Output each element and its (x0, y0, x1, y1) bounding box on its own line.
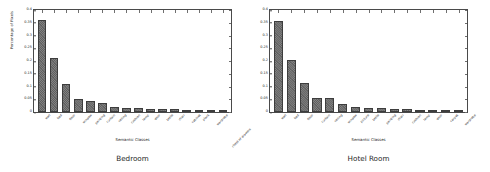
bar (38, 20, 47, 112)
y-axis-tick-label: 0.05 (24, 98, 34, 101)
y-axis-tick-label: 0.15 (24, 72, 34, 75)
x-axis-tick-label: door (154, 114, 161, 121)
y-axis-tick-label: 0.3 (26, 34, 34, 37)
bar (62, 84, 71, 112)
bar-slot (217, 10, 229, 112)
bar (338, 104, 347, 112)
bar (325, 98, 334, 112)
x-axis-title-right: Semantic Classes (269, 137, 468, 142)
x-axis-tick-label: window (83, 114, 93, 124)
right-axis-tick (229, 112, 232, 113)
x-axis-tick-label: lamp (423, 114, 431, 122)
bar-slot (48, 10, 60, 112)
x-axis-tick-label: floor (69, 114, 76, 121)
x-axis-tick-label: ceiling (118, 114, 127, 123)
bar (287, 60, 296, 112)
bar-slot (205, 10, 217, 112)
bar-slot (452, 10, 465, 112)
x-axis-tick-label: window (347, 114, 357, 124)
bar (300, 83, 309, 112)
x-axis-tick-label: painting (95, 114, 106, 125)
bar-slot (108, 10, 120, 112)
bar (454, 110, 463, 112)
x-axis-tick-label: painting (386, 114, 397, 125)
x-axis-tick-label: table (372, 114, 380, 122)
bar-slot (298, 10, 311, 112)
bar (50, 58, 59, 112)
bar-slot (157, 10, 169, 112)
bar (170, 109, 179, 112)
y-axis-tick-label: 0.3 (262, 34, 270, 37)
panel-bedroom: Percentage of Pixels 00.050.10.150.20.25… (0, 0, 245, 172)
bar-slot (413, 10, 426, 112)
bar (402, 109, 411, 112)
figure-two-panel-bar-charts: Percentage of Pixels 00.050.10.150.20.25… (0, 0, 490, 172)
bar-slot (96, 10, 108, 112)
x-axis-tick-label: table (166, 114, 174, 122)
bar (364, 108, 373, 112)
bar-slot (84, 10, 96, 112)
y-axis-tick-label: 0.4 (26, 8, 34, 11)
bar-slot (120, 10, 132, 112)
bar (74, 99, 83, 112)
bar-slot (323, 10, 336, 112)
x-axis-tick-label: floor (307, 114, 314, 121)
y-axis-tick-label: 0.15 (260, 72, 270, 75)
x-axis-tick-label: bed (294, 114, 300, 120)
y-axis-tick-label: 0.05 (260, 98, 270, 101)
x-axis-tick-label: wardrobe (464, 114, 476, 126)
y-axis-tick-label: 0.1 (262, 85, 270, 88)
bar (415, 110, 424, 112)
y-axis-tick-label: 0.25 (260, 47, 270, 50)
bar (274, 21, 283, 112)
bar (312, 98, 321, 112)
bar (122, 108, 131, 112)
x-axis-tick-label: bed (57, 114, 63, 120)
x-axis-tick-label: wall (45, 114, 52, 121)
bar-slot (439, 10, 452, 112)
y-axis-title-left: Percentage of Pixels (10, 0, 14, 68)
bar-slot (388, 10, 401, 112)
y-axis-tick-label: 0.4 (262, 8, 270, 11)
x-axis-title-left: Semantic Classes (33, 137, 232, 142)
bar-slot (401, 10, 414, 112)
bar-slot (426, 10, 439, 112)
bar (146, 109, 155, 112)
bar-series-bedroom (34, 10, 231, 112)
bar-slot (193, 10, 205, 112)
panel-caption-hotel-room: Hotel Room (269, 154, 468, 163)
bar (377, 108, 386, 112)
bar (428, 110, 437, 112)
bar (351, 107, 360, 112)
bar-series-hotel-room (270, 10, 467, 112)
bar-slot (60, 10, 72, 112)
x-axis-tick-label: chair (178, 114, 186, 122)
y-axis-tick-label: 0.2 (26, 59, 34, 62)
x-axis-tick-label: ceiling (334, 114, 343, 123)
x-axis-tick-label: picture (360, 114, 370, 124)
bar-slot (336, 10, 349, 112)
bar-slot (72, 10, 84, 112)
x-axis-tick-label: cushion (131, 114, 142, 125)
bar (110, 107, 119, 112)
x-axis-tick-label: door (436, 114, 443, 121)
bar (98, 103, 107, 112)
bar-slot (133, 10, 145, 112)
y-axis-tick-label: 0.25 (24, 47, 34, 50)
bar-slot (311, 10, 324, 112)
bar-slot (362, 10, 375, 112)
x-axis-tick-label: lamp (142, 114, 150, 122)
x-axis-tick-label: curtain (107, 114, 117, 124)
bar (158, 109, 167, 112)
bar (207, 110, 216, 112)
bar-slot (285, 10, 298, 112)
y-axis-tick-label: 0.35 (260, 21, 270, 24)
bar (86, 101, 95, 112)
x-axis-tick-label: cushion (412, 114, 423, 125)
x-axis-tick-label: wall (281, 114, 288, 121)
y-axis-tick-label: 0.35 (24, 21, 34, 24)
bar-slot (169, 10, 181, 112)
y-axis-tick-label: 0.2 (262, 59, 270, 62)
plot-area-bedroom: 00.050.10.150.20.250.30.350.4 (33, 9, 232, 113)
bar-slot (36, 10, 48, 112)
